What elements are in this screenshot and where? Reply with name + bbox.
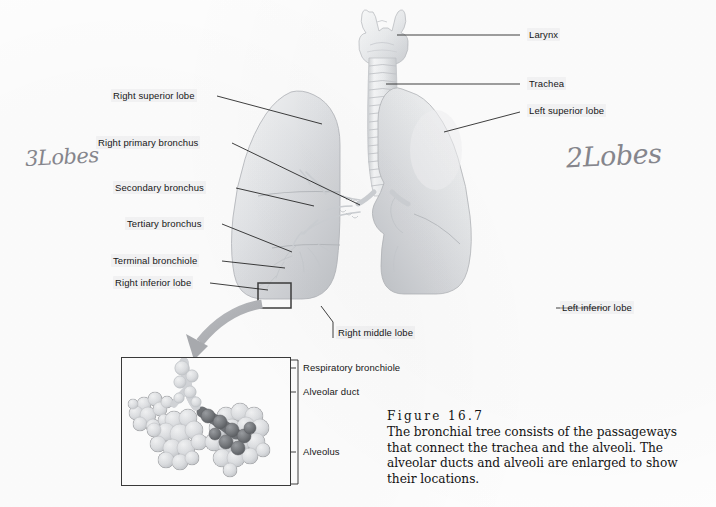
label-larynx: Larynx <box>527 28 560 41</box>
label-right-primary-bronchus: Right primary bronchus <box>96 136 200 149</box>
label-trachea: Trachea <box>527 77 566 90</box>
figure-caption: Figure 16.7 The bronchial tree consists … <box>387 409 699 487</box>
figure-number: Figure 16.7 <box>387 409 699 423</box>
right-lung <box>232 91 361 308</box>
label-left-superior-lobe: Left superior lobe <box>527 104 606 117</box>
label-tertiary-bronchus: Tertiary bronchus <box>125 217 204 230</box>
label-right-inferior-lobe: Right inferior lobe <box>113 276 193 289</box>
label-respiratory-bronchiole: Respiratory bronchiole <box>301 361 402 374</box>
larynx-structure <box>359 10 408 65</box>
bronchiole-limbs <box>174 361 201 407</box>
label-alveolar-duct: Alveolar duct <box>301 385 361 398</box>
magnification-arrow <box>186 304 262 360</box>
label-terminal-bronchiole: Terminal bronchiole <box>111 254 199 267</box>
left-lung <box>372 88 471 294</box>
figure-page: Right superior lobe Right primary bronch… <box>0 0 716 507</box>
alveoli-shading <box>122 358 290 485</box>
label-secondary-bronchus: Secondary bronchus <box>113 181 206 194</box>
label-left-inferior-lobe: Left inferior lobe <box>560 301 634 314</box>
label-right-superior-lobe: Right superior lobe <box>111 89 197 102</box>
handwriting-two-lobes: 2Lobes <box>565 138 662 174</box>
label-alveolus: Alveolus <box>301 445 342 458</box>
handwriting-three-lobes: 3Lobes <box>24 143 99 171</box>
figure-caption-text: The bronchial tree consists of the passa… <box>387 425 699 487</box>
label-right-middle-lobe: Right middle lobe <box>336 326 415 339</box>
alveoli-inset-panel <box>121 357 291 486</box>
